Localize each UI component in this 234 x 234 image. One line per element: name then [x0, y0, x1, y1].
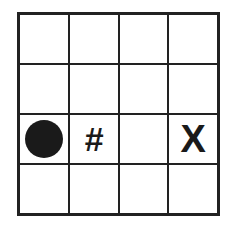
- cell-r1-c1: [69, 64, 119, 114]
- grid-board: # X: [17, 12, 220, 216]
- cell-r3-c1: [69, 164, 119, 214]
- cell-r1-c3: [168, 64, 218, 114]
- cell-r0-c0: [19, 14, 69, 64]
- cell-r2-c1: #: [69, 114, 119, 164]
- cell-r2-c0: [19, 114, 69, 164]
- cell-r1-c2: [119, 64, 169, 114]
- cell-r2-c3: X: [168, 114, 218, 164]
- cell-r2-c2: [119, 114, 169, 164]
- cell-r0-c2: [119, 14, 169, 64]
- cell-r3-c3: [168, 164, 218, 214]
- cell-r0-c1: [69, 14, 119, 64]
- cell-r0-c3: [168, 14, 218, 64]
- hash-symbol: #: [84, 122, 103, 156]
- cell-r3-c0: [19, 164, 69, 214]
- cell-r1-c0: [19, 64, 69, 114]
- x-symbol: X: [180, 120, 205, 158]
- filled-circle-icon: [25, 120, 63, 158]
- cell-r3-c2: [119, 164, 169, 214]
